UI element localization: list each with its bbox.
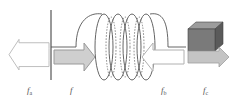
label-fa-sub: a [30, 90, 33, 96]
label-fc-sub: c [206, 90, 209, 96]
label-f-main: f [70, 85, 73, 95]
spring-coil [51, 14, 186, 80]
label-fc: fc [203, 86, 208, 96]
spring-force-diagram [0, 0, 236, 108]
label-fa: fa [27, 86, 32, 96]
arrow-fa [9, 39, 49, 70]
label-fb: fb [161, 86, 167, 96]
block [188, 22, 223, 51]
label-fb-sub: b [164, 90, 167, 96]
label-f: f [70, 86, 73, 95]
